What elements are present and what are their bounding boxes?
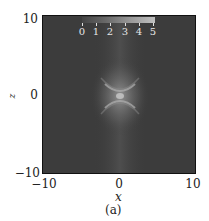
x-tick-label: 0 [104, 177, 134, 191]
figure-caption: (a) [105, 203, 122, 217]
y-tick-label: 10 [0, 12, 38, 26]
colorbar-tick-label: 2 [104, 26, 116, 37]
colorbar-tick-label: 0 [76, 26, 88, 37]
x-axis-label: x [115, 190, 122, 204]
colorbar-tick-label: 5 [147, 26, 159, 37]
y-tick-label: 0 [0, 88, 38, 102]
heatmap-plot-area [42, 15, 196, 174]
y-axis-label: z [7, 94, 17, 99]
colorbar-tick-label: 1 [90, 26, 102, 37]
colorbar-tick-label: 3 [119, 26, 131, 37]
colorbar-tick-label: 4 [133, 26, 145, 37]
x-tick-label: 10 [178, 177, 208, 191]
heatmap-image [43, 16, 196, 174]
colorbar [82, 17, 155, 23]
x-tick-label: −10 [29, 177, 59, 191]
